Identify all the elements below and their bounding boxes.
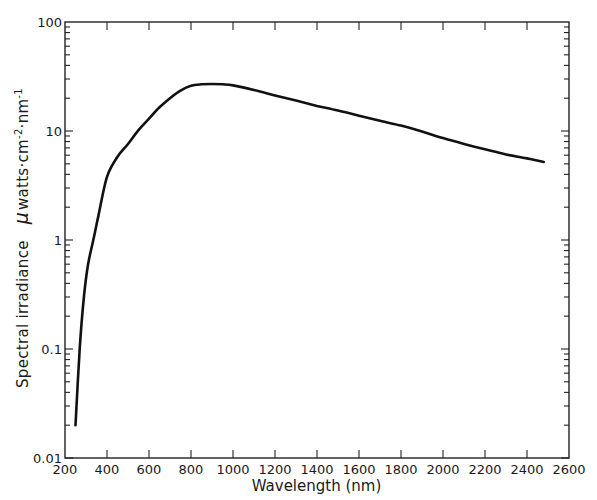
y-axis-unit-prefix: μ [10,212,32,224]
y-axis-label: Spectral irradianceμ watts·cm-2·nm-1 [6,0,36,500]
x-axis-ticks: 2004006008001000120014001600180020002200… [53,22,586,477]
y-axis-unit-exp2: -1 [13,88,24,99]
spectral-irradiance-chart: 0.010.1110100 20040060080010001200140016… [0,0,597,500]
plot-border [65,22,569,458]
plot-frame [65,22,569,458]
y-tick-label: 1 [54,233,62,248]
y-axis-unit-main: watts·cm [14,139,32,210]
x-tick-label: 2400 [510,462,543,477]
x-tick-label: 200 [53,462,78,477]
irradiance-curve [76,84,544,425]
x-tick-label: 1000 [216,462,249,477]
x-tick-label: 800 [179,462,204,477]
x-tick-label: 2200 [468,462,501,477]
x-tick-label: 1200 [258,462,291,477]
x-tick-label: 1400 [300,462,333,477]
data-series [76,84,544,425]
y-axis-label-text: Spectral irradiance [14,240,32,388]
x-tick-label: 600 [137,462,162,477]
y-tick-label: 100 [37,15,62,30]
y-tick-label: 0.1 [41,342,62,357]
x-tick-label: 1600 [342,462,375,477]
y-axis-unit-exp1: -2 [13,128,24,139]
x-tick-label: 2600 [552,462,585,477]
x-tick-label: 1800 [384,462,417,477]
y-tick-label: 10 [45,124,62,139]
x-tick-label: 2000 [426,462,459,477]
x-tick-label: 400 [95,462,120,477]
x-axis-label: Wavelength (nm) [0,477,597,495]
y-axis-unit-mid: ·nm [14,99,32,129]
y-axis-ticks: 0.010.1110100 [33,15,569,466]
